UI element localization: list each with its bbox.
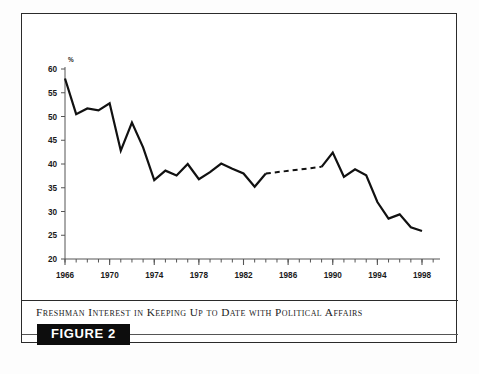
caption-divider: [22, 300, 458, 301]
series-line-solid: [65, 79, 266, 187]
figure-page: 202530354045505560%196619701974197819821…: [0, 0, 479, 374]
figure-caption: Freshman Interest in Keeping Up to Date …: [36, 306, 446, 318]
x-axis-tick-label: 1994: [368, 271, 387, 280]
x-axis-tick-label: 1966: [56, 271, 75, 280]
y-axis-tick-label: 20: [48, 255, 58, 264]
x-axis-tick-label: 1982: [234, 271, 253, 280]
series-line-solid: [322, 153, 422, 231]
x-axis-tick-label: 1970: [101, 271, 120, 280]
figure-number-badge: FIGURE 2: [37, 324, 130, 345]
line-chart: 202530354045505560%196619701974197819821…: [22, 14, 458, 300]
y-axis-unit-label: %: [68, 56, 74, 63]
y-axis-tick-label: 35: [48, 184, 58, 193]
y-axis-tick-label: 60: [48, 65, 58, 74]
series-line-dashed: [266, 167, 322, 174]
y-axis-tick-label: 40: [48, 160, 58, 169]
x-axis-tick-label: 1974: [145, 271, 164, 280]
chart-plot-area: 202530354045505560%196619701974197819821…: [22, 14, 458, 300]
figure-frame: 202530354045505560%196619701974197819821…: [21, 13, 457, 343]
y-axis-tick-label: 45: [48, 136, 58, 145]
y-axis-tick-label: 55: [48, 89, 58, 98]
y-axis-tick-label: 50: [48, 113, 58, 122]
y-axis-tick-label: 25: [48, 231, 58, 240]
x-axis-tick-label: 1986: [279, 271, 298, 280]
y-axis-tick-label: 30: [48, 208, 58, 217]
x-axis-tick-label: 1998: [413, 271, 432, 280]
x-axis-tick-label: 1978: [190, 271, 209, 280]
x-axis-tick-label: 1990: [324, 271, 343, 280]
